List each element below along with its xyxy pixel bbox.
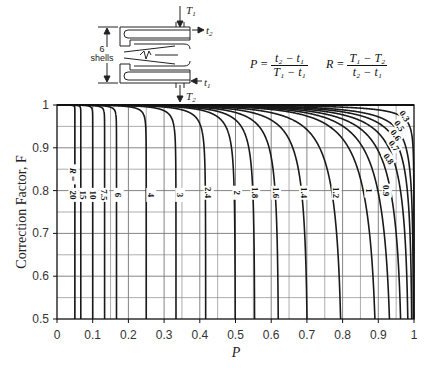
curve-label-R-0.3: 0.3: [397, 107, 414, 124]
curve-labels: 20R =15107.56432.421.81.61.41.210.90.80.…: [68, 107, 413, 202]
t2-label: t2: [206, 24, 213, 38]
R-numerator: T₁ − T₂: [347, 52, 387, 66]
T2-label: T2: [186, 90, 196, 104]
R-equals-label: R =: [68, 164, 79, 184]
shells-word-label: shells: [90, 53, 114, 63]
x-tick-label: 0.7: [299, 328, 316, 342]
curve-R-0.6: [57, 105, 412, 319]
y-tick-label: 0.6: [32, 269, 49, 283]
axis-ticks: 00.10.20.30.40.50.60.70.80.910.50.60.70.…: [32, 98, 417, 342]
svg-text:15: 15: [78, 190, 88, 200]
curve-label-R-4: 4: [146, 188, 157, 202]
x-tick-label: 0: [54, 328, 61, 342]
curve-label-R-0.6: 0.6: [388, 126, 405, 143]
curve-R-0.3: [57, 105, 414, 319]
svg-text:1.8: 1.8: [250, 187, 260, 199]
curve-label-R-2.4: 2.4: [203, 186, 214, 200]
grid: [57, 105, 414, 319]
curve-label-R-1.8: 1.8: [250, 186, 261, 200]
svg-text:1: 1: [364, 188, 374, 193]
curve-label-R-15: 15: [78, 188, 89, 202]
curve-label-R-10: 10: [88, 188, 99, 202]
curve-R-20: [57, 105, 75, 319]
curve-label-R-2: 2: [232, 186, 243, 200]
svg-text:20: 20: [68, 190, 78, 200]
curve-label-R-1.4: 1.4: [299, 186, 310, 200]
svg-text:7.5: 7.5: [99, 189, 109, 201]
curve-R-1.4: [57, 105, 307, 319]
curve-label-R-7.5: 7.5: [99, 188, 110, 202]
svg-text:R =: R =: [68, 167, 78, 181]
svg-text:1.2: 1.2: [331, 187, 341, 199]
svg-text:10: 10: [88, 190, 98, 200]
curve-R-15: [57, 105, 81, 319]
svg-text:0.9: 0.9: [381, 185, 391, 197]
curve-label-R-1.6: 1.6: [271, 186, 282, 200]
x-tick-label: 0.8: [334, 328, 351, 342]
curve-R-7.5: [57, 105, 105, 319]
svg-text:0.8: 0.8: [381, 151, 396, 166]
curves: [57, 105, 414, 319]
R-formula: R = T₁ − T₂ t₂ − t₁: [326, 52, 387, 79]
R-denominator: t₂ − t₁: [347, 66, 387, 79]
svg-text:3: 3: [175, 193, 185, 198]
curve-R-10: [57, 105, 93, 319]
svg-text:0.6: 0.6: [388, 128, 403, 143]
svg-text:2: 2: [232, 190, 242, 195]
curve-label-R-1: 1: [364, 184, 375, 198]
y-tick-label: 0.5: [32, 312, 49, 326]
curve-R-1: [57, 105, 375, 319]
svg-text:0.3: 0.3: [397, 109, 412, 124]
T1-label: T1: [186, 4, 196, 18]
svg-text:1.6: 1.6: [271, 187, 281, 199]
x-tick-label: 0.4: [191, 328, 208, 342]
curve-R-2.4: [57, 105, 206, 319]
x-axis-label: P: [231, 345, 241, 360]
curve-label-R-0.5: 0.5: [391, 117, 408, 134]
x-tick-label: 0.1: [84, 328, 101, 342]
curve-label-R-6: 6: [113, 188, 124, 202]
svg-text:2.4: 2.4: [203, 187, 213, 199]
curve-R-6: [57, 105, 117, 319]
curve-label-R-20: 20: [68, 188, 79, 202]
P-formula: P = t₂ − t₁ T₁ − t₁: [250, 52, 308, 79]
curve-R-3: [57, 105, 176, 319]
curve-label-R-0.7: 0.7: [386, 137, 403, 154]
y-axis-label: Correction Factor, F: [14, 155, 29, 269]
x-tick-label: 0.5: [227, 328, 244, 342]
curve-R-1.2: [57, 105, 341, 319]
svg-text:1.4: 1.4: [299, 187, 309, 199]
x-tick-label: 0.6: [263, 328, 280, 342]
svg-text:6: 6: [113, 193, 123, 198]
curve-label-R-0.9: 0.9: [381, 184, 392, 198]
curve-R-0.5: [57, 105, 413, 319]
curve-R-0.8: [57, 105, 401, 319]
curve-R-4: [57, 105, 146, 319]
svg-text:0.5: 0.5: [392, 118, 407, 133]
x-tick-label: 0.9: [370, 328, 387, 342]
curve-R-1.6: [57, 105, 278, 319]
t1-label: t1: [204, 76, 211, 90]
curve-label-R-0.8: 0.8: [380, 150, 397, 167]
y-tick-label: 0.9: [32, 141, 49, 155]
curve-R-1.8: [57, 105, 255, 319]
x-tick-label: 0.2: [120, 328, 137, 342]
P-numerator: t₂ − t₁: [271, 52, 307, 66]
curve-R-2: [57, 105, 235, 319]
P-denominator: T₁ − t₁: [271, 66, 307, 79]
plot-frame: [57, 105, 414, 319]
curve-label-R-3: 3: [175, 188, 186, 202]
svg-text:4: 4: [146, 193, 156, 198]
curve-R-0.9: [57, 105, 390, 319]
svg-text:0.7: 0.7: [387, 138, 402, 153]
x-tick-label: 1: [411, 328, 418, 342]
y-tick-label: 0.7: [32, 226, 49, 240]
six-shell-exchanger-diagram: 6 shells T1 t2 t1 T2: [0, 0, 215, 110]
y-tick-label: 0.8: [32, 184, 49, 198]
curve-label-R-1.2: 1.2: [331, 186, 342, 200]
x-tick-label: 0.3: [156, 328, 173, 342]
curve-R-0.7: [57, 105, 408, 319]
